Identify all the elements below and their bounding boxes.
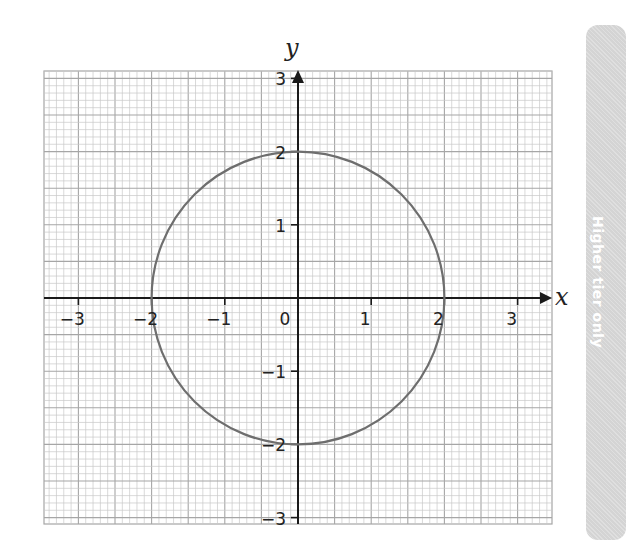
y-tick-label: −2 [261,435,286,455]
y-tick-label: −1 [261,362,286,382]
y-tick-label: −3 [261,509,286,529]
y-axis-label: y [284,34,299,62]
x-tick-label: 3 [506,309,517,329]
x-axis-label: x [555,283,569,311]
y-tick-label: 3 [275,69,286,89]
x-tick-label: 0 [280,309,291,329]
x-tick-label: −3 [60,309,85,329]
side-tab-label: Higher tier only [590,216,606,348]
x-tick-label: 1 [360,309,371,329]
y-tick-label: 1 [275,216,286,236]
x-tick-label: 2 [433,309,444,329]
x-tick-label: −1 [206,309,231,329]
y-tick-label: 2 [275,143,286,163]
x-tick-label: −2 [133,309,158,329]
